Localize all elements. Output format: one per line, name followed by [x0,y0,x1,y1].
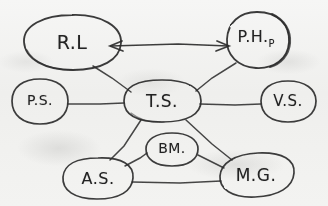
node-label-vs: V.S. [273,92,302,110]
edge-as-bm [125,153,147,166]
edge-rl-ts [93,66,131,92]
edge-ts-as [110,120,141,160]
node-label-bm: BM. [158,140,186,156]
edge-rl-ph [110,41,229,51]
edge-as-mg [132,181,221,183]
node-label-rl: R.L [57,31,88,53]
edge-ts-mg [186,120,232,160]
node-label-ph: P.H.P [237,27,274,48]
edge-ts-vs [200,104,261,105]
node-label-ps: P.S. [27,92,53,108]
edge-bm-mg [198,155,224,168]
node-label-as: A.S. [82,169,115,188]
node-label-mg: M.G. [236,165,277,185]
diagram-canvas: P.H. (bidirectional arrow) --> [0,0,328,206]
node-label-ph-main: P.H. [237,27,268,46]
node-label-ts: T.S. [146,91,178,111]
node-label-ph-subscript: P [269,38,275,49]
edge-ph-ts [196,63,236,91]
edge-ps-ts [68,103,124,104]
